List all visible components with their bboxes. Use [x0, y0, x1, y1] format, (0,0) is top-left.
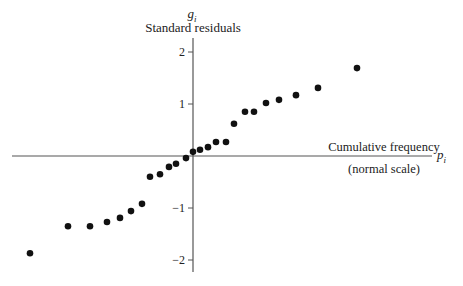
data-point [293, 92, 300, 99]
y-tick-label: 2 [179, 45, 185, 59]
x-axis-symbol: pi [436, 147, 447, 165]
y-tick-label: −2 [172, 253, 185, 267]
y-tick-label: −1 [172, 201, 185, 215]
data-point [197, 146, 204, 153]
data-point [190, 149, 197, 156]
data-point [315, 85, 322, 92]
x-axis-sublabel: (normal scale) [348, 162, 420, 176]
normal-probability-plot: 21−1−2 gi Standard residuals Cumulative … [0, 0, 463, 286]
data-point [65, 223, 72, 230]
x-axis-label: Cumulative frequency [328, 140, 440, 154]
data-point [276, 97, 283, 104]
data-point [173, 161, 180, 168]
data-point [183, 155, 190, 162]
data-point [166, 164, 173, 171]
data-point [117, 215, 124, 222]
data-point [139, 201, 146, 208]
y-axis-label: Standard residuals [145, 20, 241, 35]
data-point [157, 171, 164, 178]
data-point [213, 139, 220, 146]
data-point [205, 144, 212, 151]
data-point [128, 208, 135, 215]
data-point [263, 100, 270, 107]
y-tick-label: 1 [179, 97, 185, 111]
data-point [87, 223, 94, 230]
axes [12, 38, 432, 272]
data-point [251, 109, 258, 116]
data-point [242, 109, 249, 116]
data-point [354, 65, 361, 72]
data-point [147, 174, 154, 181]
data-point [231, 120, 238, 127]
data-point [27, 250, 34, 257]
data-point [104, 219, 111, 226]
data-point [223, 139, 230, 146]
